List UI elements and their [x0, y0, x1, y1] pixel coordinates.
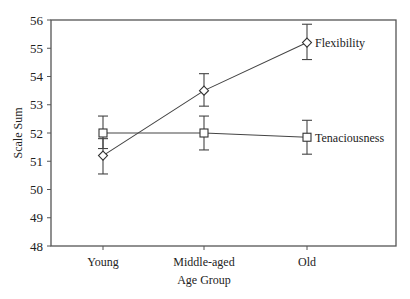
line-chart: 484950515253545556YoungMiddle-agedOldAge… [0, 0, 410, 299]
square-marker [200, 129, 208, 137]
y-tick-label: 56 [30, 13, 44, 28]
y-tick-label: 49 [30, 210, 43, 225]
y-tick-label: 55 [30, 41, 43, 56]
y-tick-label: 48 [30, 239, 43, 254]
diamond-marker [303, 38, 312, 47]
square-marker [303, 133, 311, 141]
x-tick-label: Middle-aged [173, 255, 234, 269]
square-marker [99, 129, 107, 137]
x-tick-label: Young [87, 255, 118, 269]
y-tick-label: 52 [30, 126, 43, 141]
y-tick-label: 54 [30, 69, 44, 84]
x-tick-label: Old [298, 255, 316, 269]
diamond-marker [99, 151, 108, 160]
y-tick-label: 53 [30, 97, 43, 112]
y-tick-label: 51 [30, 154, 43, 169]
x-axis-label: Age Group [177, 273, 231, 287]
diamond-marker [200, 86, 209, 95]
series-label: Flexibility [315, 36, 365, 50]
y-tick-label: 50 [30, 182, 43, 197]
series-label: Tenaciousness [315, 131, 384, 145]
series-line-flexibility [103, 43, 307, 156]
y-axis-label: Scale Sum [11, 107, 25, 159]
